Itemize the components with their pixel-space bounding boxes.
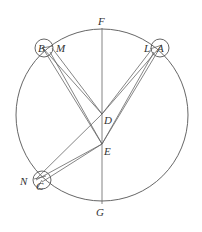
label-e: E bbox=[103, 145, 111, 157]
segment-e-l bbox=[102, 52, 154, 144]
segment-d-n bbox=[36, 114, 102, 179]
epicycle-diagram: F G D E B M L A N C bbox=[0, 0, 202, 232]
segment-e-b bbox=[44, 50, 102, 144]
label-c: C bbox=[36, 180, 44, 192]
segment-d-b bbox=[42, 47, 102, 114]
segment-e-c bbox=[42, 144, 102, 182]
segment-e-a bbox=[102, 51, 158, 144]
segment-e-m bbox=[50, 52, 102, 144]
label-b: B bbox=[38, 42, 45, 54]
label-n: N bbox=[19, 175, 28, 187]
segment-e-n bbox=[36, 144, 102, 180]
label-d: D bbox=[103, 114, 112, 126]
label-m: M bbox=[55, 42, 66, 54]
label-g: G bbox=[96, 206, 104, 218]
label-l: L bbox=[143, 42, 150, 54]
label-f: F bbox=[97, 15, 105, 27]
label-a: A bbox=[156, 42, 164, 54]
segment-d-l bbox=[102, 49, 152, 114]
